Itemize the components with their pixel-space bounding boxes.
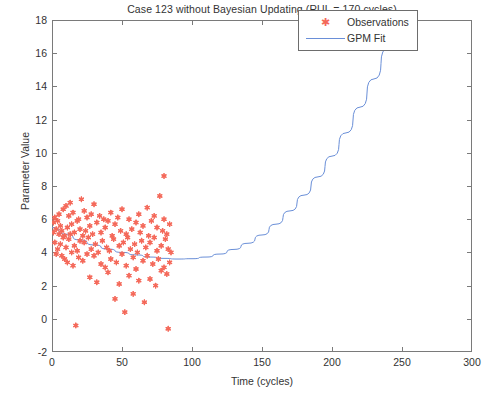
observation-marker [149,219,153,224]
axes-frame [53,21,472,352]
observation-marker [140,238,144,243]
y-tick-label: 2 [41,280,47,292]
observation-marker [75,248,79,253]
y-tick-label: 18 [35,14,47,26]
observation-marker [155,225,159,230]
observation-marker [166,247,170,252]
observation-marker [120,207,124,212]
observation-marker [65,225,69,230]
observation-marker [88,224,92,229]
observation-marker [65,260,69,265]
observation-marker [60,229,64,234]
observation-marker [113,297,117,302]
observation-marker [148,240,152,245]
observation-marker [78,227,82,232]
observation-marker [134,220,138,225]
observation-marker [114,260,118,265]
observation-points [52,174,173,331]
observation-marker [89,247,93,252]
observation-marker [152,235,156,240]
observation-marker [106,270,110,275]
y-tick-label: 0 [41,313,47,325]
observation-marker [133,242,137,247]
observation-marker [103,225,107,230]
observation-marker [92,202,96,207]
x-tick-label: 100 [183,356,201,368]
observation-marker [109,257,113,262]
observation-marker [106,219,110,224]
x-axis-label: Time (cycles) [52,375,472,387]
legend-item-observations: ✱ Observations [299,14,417,30]
legend-label-observations: Observations [347,16,409,28]
observation-marker [117,243,121,248]
observation-marker [152,214,156,219]
observation-marker [86,235,90,240]
observation-marker [57,212,61,217]
observation-marker [68,200,72,205]
observation-marker [165,232,169,237]
star-marker-icon: ✱ [303,15,347,29]
observation-marker [81,234,85,239]
observation-marker [85,215,89,220]
y-tick-label: 4 [41,246,47,258]
observation-marker [162,174,166,179]
y-tick-label: 8 [41,180,47,192]
y-tick-label: 6 [41,213,47,225]
observation-marker [82,209,86,214]
x-tick-label: 50 [116,356,128,368]
observation-marker [124,263,128,268]
x-tick-label: 300 [463,356,481,368]
observation-marker [137,212,141,217]
observation-marker [123,310,127,315]
observation-marker [64,245,68,250]
observation-marker [141,258,145,263]
line-sample-icon [303,31,347,45]
observation-marker [67,237,71,242]
observation-marker [70,250,74,255]
observation-marker [61,207,65,212]
observation-marker [98,214,102,219]
observation-marker [58,242,62,247]
observation-marker [131,292,135,297]
x-tick-label: 150 [253,356,271,368]
legend-item-gpm-fit: GPM Fit [299,30,417,46]
plot-svg [52,20,472,352]
observation-marker [159,243,163,248]
observation-marker [128,247,132,252]
observation-marker [92,253,96,258]
observation-marker [138,230,142,235]
chart-figure: Case 123 without Bayesian Updating (RUL … [0,0,494,397]
observation-marker [72,230,76,235]
observation-marker [70,222,74,227]
observation-marker [168,222,172,227]
y-tick-label: 12 [35,114,47,126]
observation-marker [99,262,103,267]
y-axis-label: Parameter Value [19,101,31,241]
observation-marker [56,247,60,252]
observation-marker [100,238,104,243]
observation-marker [158,194,162,199]
axis-ticks [52,20,472,352]
observation-marker [71,210,75,215]
legend-label-gpm-fit: GPM Fit [347,32,386,44]
observation-marker [130,227,134,232]
x-tick-label: 200 [323,356,341,368]
observation-marker [162,217,166,222]
observation-marker [60,253,64,258]
observation-marker [166,326,170,331]
observation-marker [77,255,81,260]
observation-marker [93,242,97,247]
observation-marker [162,265,166,270]
observation-marker [116,215,120,220]
x-tick-label: 250 [393,356,411,368]
observation-marker [142,300,146,305]
observation-marker [151,262,155,267]
chart-legend: ✱ Observations GPM Fit [298,10,418,51]
observation-marker [155,248,159,253]
observation-marker [81,258,85,263]
observation-marker [135,250,139,255]
observation-marker [96,250,100,255]
observation-marker [72,243,76,248]
y-tick-label: -2 [38,346,47,358]
observation-marker [147,234,151,239]
